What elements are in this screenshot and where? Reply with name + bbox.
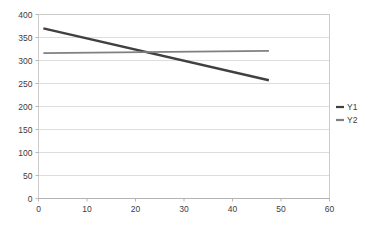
x-tick-label-0: 0 [36, 204, 41, 214]
x-tick-label-3: 30 [179, 204, 189, 214]
chart-canvas: 050100150200250300350400 0102030405060 Y… [0, 0, 373, 228]
x-tick-label-1: 10 [82, 204, 92, 214]
legend-label-y2: Y2 [347, 115, 358, 125]
y-tick-label-6: 300 [18, 56, 32, 66]
legend-label-y1: Y1 [347, 102, 358, 112]
y-tick-label-2: 100 [18, 148, 32, 158]
y-tick-label-0: 0 [28, 194, 33, 204]
y-tick-label-4: 200 [18, 102, 32, 112]
y-tick-label-1: 50 [23, 171, 33, 181]
x-tick-label-4: 40 [228, 204, 238, 214]
y-tick-label-5: 250 [18, 79, 32, 89]
y-tick-label-8: 400 [18, 10, 32, 20]
y-tick-label-3: 150 [18, 125, 32, 135]
chart-background [0, 0, 373, 228]
x-tick-label-6: 60 [325, 204, 335, 214]
x-tick-label-5: 50 [276, 204, 286, 214]
y-tick-label-7: 350 [18, 33, 32, 43]
line-chart: 050100150200250300350400 0102030405060 Y… [0, 0, 373, 228]
x-tick-label-2: 20 [131, 204, 141, 214]
